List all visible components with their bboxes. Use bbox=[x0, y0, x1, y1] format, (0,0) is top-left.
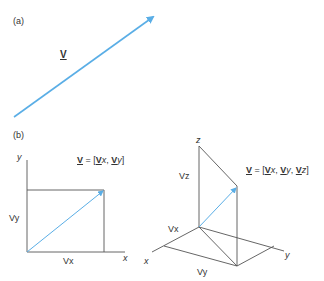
panel-a-label: (a) bbox=[13, 17, 24, 26]
two-d-plot bbox=[27, 160, 125, 252]
vector-label-a: V bbox=[60, 50, 67, 60]
axis-z-3d-label: z bbox=[196, 136, 201, 145]
axis-y-2d-label: y bbox=[17, 153, 22, 162]
component-y-2d-label: Vy bbox=[9, 214, 19, 223]
component-x-2d-label: Vx bbox=[63, 257, 74, 266]
panel-b-label: (b) bbox=[13, 131, 24, 140]
plane-top-diagonal bbox=[199, 146, 237, 186]
three-d-plot bbox=[152, 146, 284, 266]
formula-2d: V = [Vx, Vy] bbox=[77, 156, 124, 165]
floor-front bbox=[164, 246, 237, 266]
component-z-3d-label: Vz bbox=[179, 172, 190, 181]
vector-arrow-3d bbox=[199, 188, 236, 227]
axis-y-3d-label: y bbox=[285, 251, 290, 260]
component-y-3d-label: Vy bbox=[197, 268, 207, 277]
floor-right bbox=[237, 246, 274, 266]
floor-diagonal bbox=[199, 227, 237, 266]
vector-diagram bbox=[0, 0, 324, 281]
axis-x-3d-label: x bbox=[144, 257, 149, 266]
vector-arrow-a bbox=[14, 17, 153, 117]
formula-3d: V = [Vx, Vy, Vz] bbox=[246, 166, 309, 175]
component-x-3d-label: Vx bbox=[168, 225, 179, 234]
axis-x-2d-label: x bbox=[123, 254, 128, 263]
vector-arrow-2d bbox=[27, 191, 103, 252]
